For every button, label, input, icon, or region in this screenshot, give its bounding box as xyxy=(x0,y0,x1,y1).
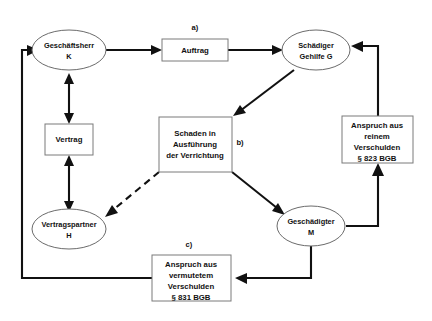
step-label-b: b) xyxy=(236,138,244,147)
edge-geschaeftsherr-to-auftrag xyxy=(106,45,162,55)
box-anspruch-823-line4: § 823 BGB xyxy=(357,154,396,163)
box-schaden-line1: Schaden in xyxy=(174,129,216,138)
node-geschaeftsherr-line2: K xyxy=(66,52,72,61)
box-schaden-in-ausfuehrung[interactable]: Schaden in Ausführung der Verrichtung xyxy=(159,117,232,172)
box-anspruch-831-line2: vermutetem xyxy=(169,271,213,280)
box-vertrag[interactable]: Vertrag xyxy=(45,124,93,155)
node-schaediger-line2: Gehilfe G xyxy=(300,52,333,61)
edge-schaden-to-vertragspartner-dashed xyxy=(105,172,159,217)
edge-anspruch-823-to-schaediger xyxy=(351,41,378,116)
box-anspruch-823-line1: Anspruch aus xyxy=(351,121,404,130)
box-anspruch-831[interactable]: Anspruch aus vermutetem Verschulden § 83… xyxy=(152,255,231,302)
edge-schaden-to-geschaedigter xyxy=(232,172,285,215)
node-geschaeftsherr[interactable]: Geschäftsherr K xyxy=(32,30,106,70)
box-anspruch-823-line2: reinem xyxy=(364,132,390,141)
box-vertrag-line1: Vertrag xyxy=(56,135,83,144)
node-geschaedigter-line1: Geschädigter xyxy=(287,217,334,226)
node-geschaedigter-line2: M xyxy=(308,228,314,237)
node-schaediger[interactable]: Schädiger Gehilfe G xyxy=(282,30,350,70)
step-label-c: c) xyxy=(186,240,193,249)
node-geschaedigter[interactable]: Geschädigter M xyxy=(277,206,345,246)
edge-vertrag-vertragspartner xyxy=(64,155,74,212)
box-auftrag[interactable]: Auftrag xyxy=(162,39,228,61)
box-auftrag-line1: Auftrag xyxy=(181,46,209,55)
box-anspruch-831-line1: Anspruch aus xyxy=(165,260,218,269)
node-vertragspartner-line1: Vertragspartner xyxy=(41,220,96,229)
legal-liability-diagram: Geschäftsherr K Schädiger Gehilfe G Vert… xyxy=(0,0,432,321)
box-anspruch-831-line3: Verschulden xyxy=(168,282,215,291)
edge-schaediger-to-schaden xyxy=(233,70,294,116)
box-anspruch-823[interactable]: Anspruch aus reinem Verschulden § 823 BG… xyxy=(342,116,413,163)
box-schaden-line3: der Verrichtung xyxy=(166,151,224,160)
box-anspruch-823-line3: Verschulden xyxy=(354,143,401,152)
box-schaden-line2: Ausführung xyxy=(173,140,217,149)
step-label-a: a) xyxy=(192,23,199,32)
edge-geschaedigter-to-anspruch-823 xyxy=(346,163,384,226)
node-schaediger-line1: Schädiger xyxy=(298,41,334,50)
edge-auftrag-to-schaediger xyxy=(228,45,283,55)
node-geschaeftsherr-line1: Geschäftsherr xyxy=(44,41,94,50)
box-anspruch-831-line4: § 831 BGB xyxy=(171,293,210,302)
edge-geschaeftsherr-vertrag xyxy=(64,73,74,124)
diagram-canvas: Geschäftsherr K Schädiger Gehilfe G Vert… xyxy=(0,0,432,321)
edge-geschaedigter-to-anspruch-831 xyxy=(235,246,311,284)
node-vertragspartner[interactable]: Vertragspartner H xyxy=(32,209,106,249)
node-vertragspartner-line2: H xyxy=(66,231,71,240)
